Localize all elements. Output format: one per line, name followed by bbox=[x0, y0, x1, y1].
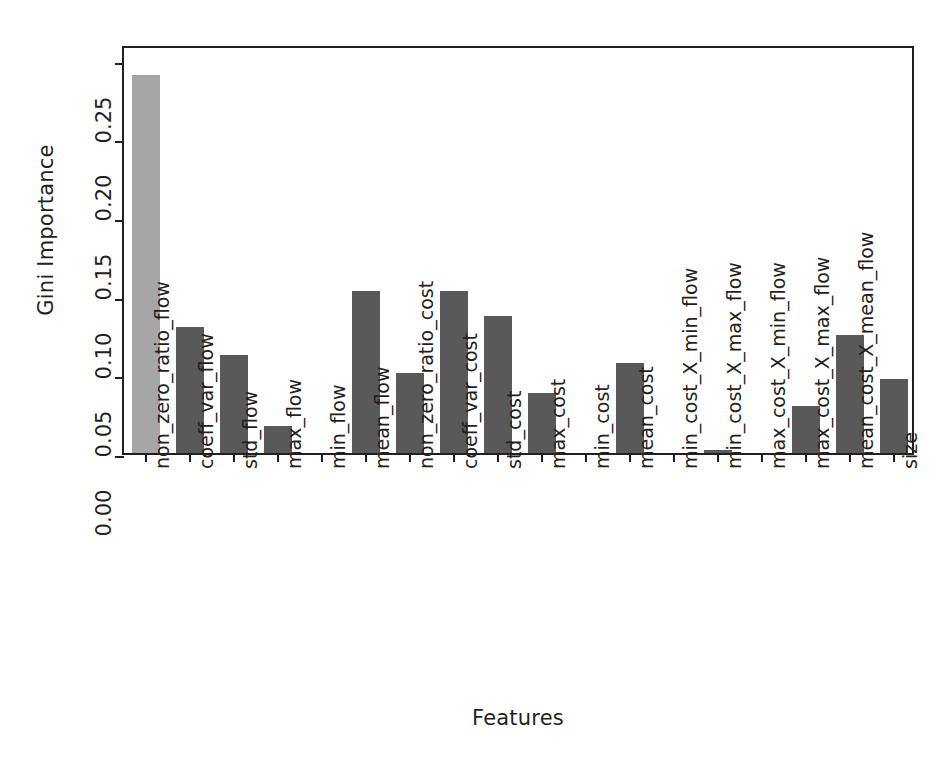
x-tick-mark bbox=[497, 453, 499, 462]
x-tick-label: mean_flow bbox=[371, 366, 393, 469]
x-tick-label: min_cost bbox=[591, 384, 613, 469]
x-tick-mark bbox=[453, 453, 455, 462]
x-tick-mark bbox=[321, 453, 323, 462]
x-tick-label: max_cost bbox=[547, 379, 569, 469]
y-tick-label: 0.25 bbox=[92, 60, 116, 180]
x-tick-mark bbox=[717, 453, 719, 462]
x-tick-label: non_zero_ratio_cost bbox=[415, 281, 437, 469]
x-tick-label: min_cost_X_min_flow bbox=[679, 268, 701, 469]
x-tick-mark bbox=[145, 453, 147, 462]
x-tick-label: size bbox=[899, 432, 921, 469]
x-tick-label: std_cost bbox=[503, 391, 525, 469]
x-tick-mark bbox=[761, 453, 763, 462]
x-tick-label: max_cost_X_max_flow bbox=[811, 257, 833, 469]
x-tick-mark bbox=[277, 453, 279, 462]
y-tick-mark bbox=[115, 220, 124, 222]
x-tick-mark bbox=[673, 453, 675, 462]
x-tick-mark bbox=[805, 453, 807, 462]
x-tick-mark bbox=[365, 453, 367, 462]
x-tick-label: std_flow bbox=[239, 391, 261, 469]
x-tick-label: coeff_var_cost bbox=[459, 333, 481, 469]
x-tick-label: mean_cost_X_mean_flow bbox=[855, 232, 877, 469]
x-tick-label: non_zero_ratio_flow bbox=[151, 281, 173, 469]
x-tick-mark bbox=[409, 453, 411, 462]
x-tick-label: min_cost_X_max_flow bbox=[723, 262, 745, 469]
x-tick-mark bbox=[849, 453, 851, 462]
x-tick-mark bbox=[893, 453, 895, 462]
x-tick-label: max_flow bbox=[283, 379, 305, 469]
x-tick-label: mean_cost bbox=[635, 366, 657, 469]
x-tick-mark bbox=[541, 453, 543, 462]
x-axis-label: Features bbox=[122, 706, 914, 730]
x-tick-mark bbox=[233, 453, 235, 462]
y-tick-mark bbox=[115, 63, 124, 65]
y-tick-mark bbox=[115, 377, 124, 379]
x-tick-label: coeff_var_flow bbox=[195, 333, 217, 469]
x-tick-label: max_cost_X_min_flow bbox=[767, 262, 789, 469]
y-axis-label: Gini Importance bbox=[34, 80, 58, 380]
x-tick-mark bbox=[629, 453, 631, 462]
x-tick-mark bbox=[189, 453, 191, 462]
gini-importance-bar-chart: Gini Importance 0.000.050.100.150.200.25… bbox=[0, 0, 943, 760]
y-tick-mark bbox=[115, 456, 124, 458]
y-tick-mark bbox=[115, 299, 124, 301]
y-tick-mark bbox=[115, 141, 124, 143]
x-tick-mark bbox=[585, 453, 587, 462]
x-tick-label: min_flow bbox=[327, 385, 349, 469]
